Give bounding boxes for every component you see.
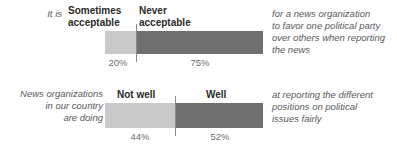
row1-category-label-2-line-2: acceptable — [139, 17, 191, 28]
row1-trail-text-line-2: to favor one political party — [272, 20, 380, 31]
row2-trail-text-line-3: issues fairly — [272, 113, 322, 124]
row1-trail-text-line-4: the news — [272, 44, 310, 55]
row2-category-label-2: Well — [206, 89, 226, 100]
row2-value-label-1: 44% — [120, 131, 160, 142]
row1-value-label-2: 75% — [180, 57, 220, 68]
row2-trail-text-line-1: at reporting the different — [272, 89, 373, 100]
row1-category-label-2-line-1: Never — [139, 5, 167, 16]
row2-stacked-bar — [105, 103, 263, 128]
row1-bar-segment-sometimes-acceptable — [105, 31, 136, 54]
row1-trail-text-line-3: over others when reporting — [272, 32, 385, 43]
row1-bar-segment-never-acceptable — [136, 31, 263, 54]
row1-lead-in-line-1: It is — [4, 8, 62, 19]
row2-bar-segment-well — [175, 103, 263, 128]
row1-trail-text-line-1: for a news organization — [272, 8, 370, 19]
row1-category-label-1-line-1: Sometimes — [68, 5, 121, 16]
row2-bar-segment-not-well — [105, 103, 175, 128]
row1-value-label-1: 20% — [98, 57, 138, 68]
row2-lead-in-line-3: are doing — [3, 112, 103, 123]
row2-category-label-1: Not well — [117, 89, 155, 100]
row2-divider-line — [175, 96, 176, 136]
row2-lead-in-line-2: in our country — [3, 100, 103, 111]
row2-lead-in-line-1: News organizations — [3, 88, 103, 99]
row1-stacked-bar — [105, 31, 263, 54]
row1-category-label-1-line-2: acceptable — [68, 17, 120, 28]
infographic-root: It is Sometimes acceptable Never accepta… — [0, 0, 397, 152]
row2-trail-text-line-2: positions on political — [272, 101, 357, 112]
row2-value-label-2: 52% — [200, 131, 240, 142]
